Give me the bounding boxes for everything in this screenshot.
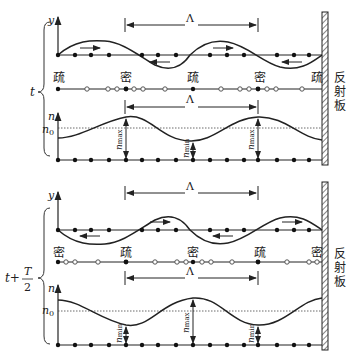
density-label: 密 <box>120 70 132 85</box>
density-label: 密 <box>187 245 199 260</box>
density-label: 密 <box>53 245 65 260</box>
density-label: 密 <box>254 70 266 85</box>
n-max-label: nmax <box>246 129 256 150</box>
lambda-label: Λ <box>185 93 195 106</box>
n-min-label: nmin <box>114 323 124 343</box>
n0-label: n0 <box>42 304 54 318</box>
lambda-label: Λ <box>185 265 195 278</box>
density-label: 疏 <box>254 245 266 260</box>
y-axis-label: y <box>47 14 55 27</box>
n-min-label: nmin <box>246 323 256 343</box>
density-label: 疏 <box>53 70 65 85</box>
time-label-numerator: T <box>24 265 33 278</box>
reflector-label: 射 <box>334 84 346 99</box>
lambda-label: Λ <box>185 12 195 25</box>
panel-time-t: t y Λ 疏 密 疏 密 疏 <box>30 12 323 162</box>
time-label-t: t <box>30 85 35 99</box>
n-max-label: nmax <box>114 129 124 150</box>
reflector-plate-bottom <box>322 182 328 350</box>
density-label: 疏 <box>187 70 199 85</box>
n-axis-label: n <box>48 282 55 295</box>
time-label-denominator: 2 <box>24 281 31 294</box>
density-label: 密 <box>311 245 323 260</box>
n-max-label: nmax <box>181 312 191 333</box>
density-label: 疏 <box>311 70 323 85</box>
time-label-prefix: t+ <box>5 271 20 285</box>
density-label: 疏 <box>120 245 132 260</box>
diagram-canvas: t y Λ 疏 密 疏 密 疏 <box>0 0 356 362</box>
standing-wave-diagram: t y Λ 疏 密 疏 密 疏 <box>0 0 356 362</box>
n-axis-label: n <box>48 110 55 123</box>
y-axis-label: y <box>47 189 55 202</box>
reflector-label: 反 <box>334 71 346 85</box>
reflector-label: 板 <box>334 99 346 113</box>
reflector-plate-top <box>322 12 328 165</box>
n-min-label: nmin <box>181 138 191 158</box>
reflector-label: 板 <box>334 275 346 289</box>
n0-label: n0 <box>42 123 54 137</box>
lambda-label: Λ <box>185 180 195 193</box>
panel-time-t-plus-half-period: t+ T 2 Λ y 密 疏 密 疏 密 <box>5 180 323 347</box>
reflector-label: 射 <box>334 260 346 275</box>
reflector-label: 反 <box>334 247 346 261</box>
